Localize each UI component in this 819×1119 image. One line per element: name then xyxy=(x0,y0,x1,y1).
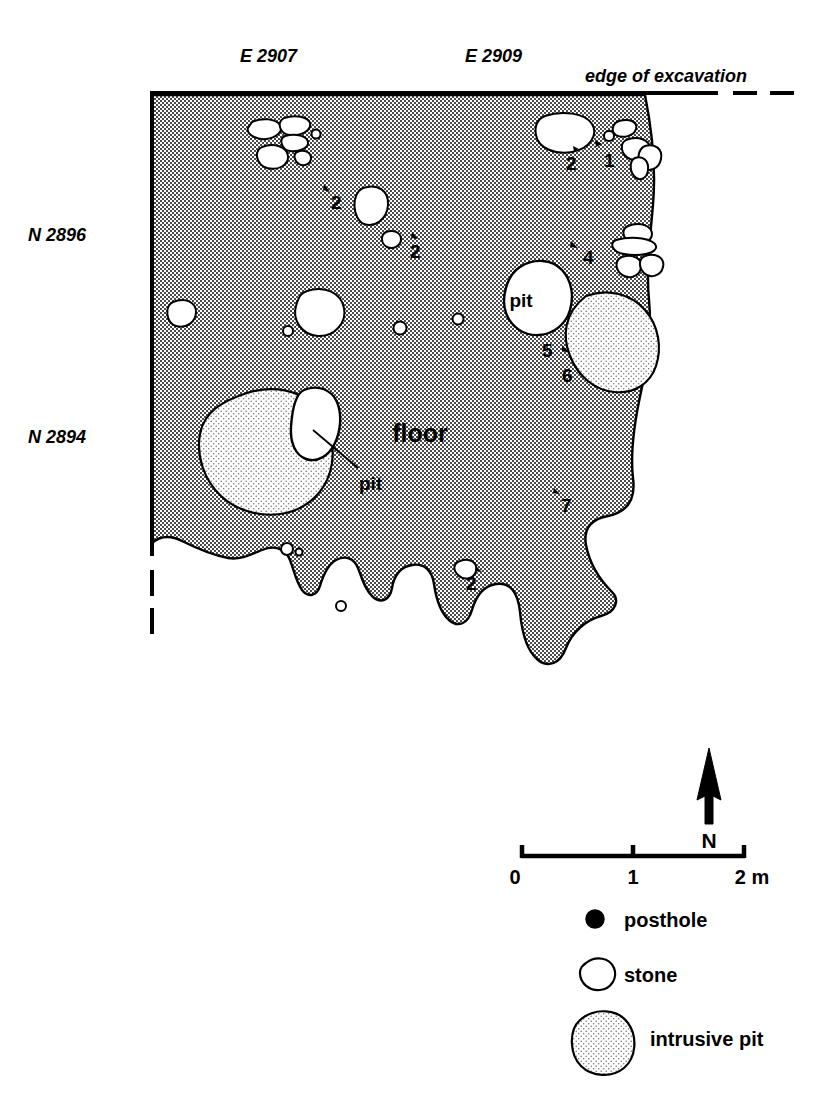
posthole-number: 4 xyxy=(583,247,594,268)
site-plan-figure: pit pit xyxy=(0,0,819,1119)
scale-tick-label: 2 m xyxy=(735,866,769,888)
grid-label-north: N 2896 xyxy=(28,225,87,245)
posthole-number: 1 xyxy=(604,150,615,171)
legend-item-label: intrusive pit xyxy=(650,1028,764,1050)
stone xyxy=(617,256,642,277)
posthole-number: 2 xyxy=(566,153,577,174)
stone xyxy=(296,549,303,556)
pit-lower-label: pit xyxy=(359,473,383,494)
stone xyxy=(535,113,594,153)
stone xyxy=(453,314,464,325)
pit-upper-label: pit xyxy=(509,290,533,311)
north-arrow-icon xyxy=(697,748,721,824)
stone xyxy=(281,135,308,151)
legend-item-label: posthole xyxy=(624,909,707,931)
stone xyxy=(613,120,637,137)
north-arrow: N xyxy=(697,748,721,852)
posthole-number: 7 xyxy=(561,495,572,516)
stone xyxy=(604,131,614,141)
edge-of-excavation-label: edge of excavation xyxy=(585,66,747,86)
posthole-number: 2 xyxy=(466,573,477,594)
posthole-number: 5 xyxy=(542,340,553,361)
stone xyxy=(312,130,321,139)
legend-posthole-icon xyxy=(586,910,604,928)
stone xyxy=(167,300,196,327)
legend-item-label: stone xyxy=(624,964,677,986)
scale-tick-label: 1 xyxy=(627,866,638,888)
stone xyxy=(382,231,401,248)
grid-label-north: N 2894 xyxy=(28,427,86,447)
stone xyxy=(281,543,293,555)
legend-intrusive-pit-icon xyxy=(572,1011,635,1075)
pit-lower-shape xyxy=(291,388,340,460)
excavation-floor-area xyxy=(152,95,654,664)
posthole-number: 6 xyxy=(562,365,573,386)
posthole-number: 2 xyxy=(410,241,421,262)
stone xyxy=(295,151,311,165)
legend-stone-icon xyxy=(580,958,615,990)
stone xyxy=(280,116,311,135)
floor-label: floor xyxy=(392,419,448,447)
stone xyxy=(295,289,344,336)
stone xyxy=(354,187,388,225)
stone xyxy=(248,119,281,139)
stone xyxy=(283,326,293,336)
stone xyxy=(336,601,346,611)
grid-label-east: E 2909 xyxy=(465,46,522,66)
stone xyxy=(612,238,656,255)
scale-bar: 0 1 2 m xyxy=(509,845,769,888)
legend: posthole stone intrusive pit xyxy=(572,909,764,1075)
posthole-number: 2 xyxy=(331,192,342,213)
site-plan-svg: pit pit xyxy=(0,0,819,1119)
north-arrow-label: N xyxy=(701,829,716,852)
grid-label-east: E 2907 xyxy=(240,46,298,66)
stone xyxy=(394,322,407,335)
scale-tick-label: 0 xyxy=(509,866,520,888)
stone xyxy=(257,145,288,169)
floor-outline xyxy=(152,95,654,664)
stone xyxy=(631,157,648,179)
stone xyxy=(640,255,663,276)
